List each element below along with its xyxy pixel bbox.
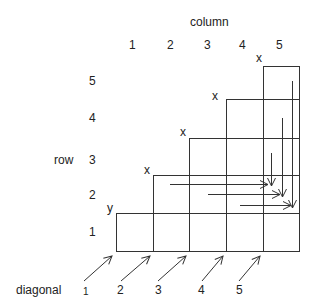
horizontal-arrows (170, 185, 291, 206)
diagonal-arrow-1 (84, 256, 112, 281)
row-label-4: 4 (89, 112, 96, 124)
diagonal-label-2: 2 (117, 284, 124, 296)
row-label-2: 2 (89, 189, 96, 201)
row-axis-label: row (54, 154, 73, 166)
diagonal-arrow-5 (239, 256, 260, 281)
diagonal-arrow-2 (121, 256, 150, 281)
column-label-4: 4 (239, 39, 246, 51)
diagonal-label-4: 4 (198, 284, 205, 296)
vertical-arrows (272, 81, 293, 208)
diagonal-label-3: 3 (155, 284, 162, 296)
x-marker-row3: x (180, 126, 186, 138)
x-marker-row2: x (144, 164, 150, 176)
staircase-grid (117, 67, 300, 252)
row-label-3: 3 (89, 154, 96, 166)
x-marker-row4: x (212, 90, 218, 102)
diagonal-arrows (84, 256, 260, 281)
row-label-5: 5 (89, 75, 96, 87)
x-marker-row5: x (256, 52, 262, 64)
column-axis-label: column (190, 16, 229, 28)
column-label-1: 1 (129, 39, 136, 51)
row-label-1: 1 (89, 226, 96, 238)
diagonal-label-1: 1 (83, 286, 89, 298)
column-label-5: 5 (276, 39, 283, 51)
y-marker: y (107, 202, 113, 214)
triangular-grid-diagram (0, 0, 316, 307)
diagonal-arrow-4 (202, 256, 223, 281)
diagonal-arrow-3 (158, 256, 186, 281)
column-label-2: 2 (167, 39, 174, 51)
diagonal-axis-label: diagonal (16, 284, 61, 296)
diagonal-label-5: 5 (236, 284, 243, 296)
column-label-3: 3 (204, 39, 211, 51)
